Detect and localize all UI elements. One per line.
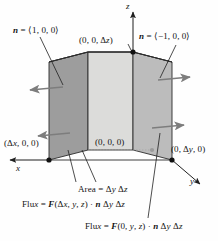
y-axis-label: y bbox=[190, 176, 194, 186]
vertex-dot-origin bbox=[150, 148, 154, 152]
y-vertex-label: (0, Δy, 0) bbox=[171, 144, 205, 154]
flux-front-label: Flux = F(Δx, y, z) · n Δy Δz bbox=[22, 199, 125, 209]
origin-label: (0, 0, 0) bbox=[95, 137, 124, 147]
box-face-right bbox=[133, 52, 172, 160]
leader-flux-front bbox=[82, 150, 96, 182]
top-vertex-label: (0, 0, Δz) bbox=[79, 35, 113, 45]
x-vertex-label: (Δx, 0, 0) bbox=[4, 138, 39, 148]
x-axis-label: x bbox=[16, 163, 20, 173]
vertex-dot-y bbox=[169, 157, 174, 162]
normal-right-label: n = ⟨−1, 0, 0⟩ bbox=[139, 31, 191, 41]
vertex-dot-x bbox=[46, 157, 51, 162]
y-axis bbox=[172, 160, 200, 184]
flux-back-label: Flux = F(0, y, z) · n Δy Δz bbox=[85, 221, 182, 231]
box-face-front bbox=[88, 52, 133, 150]
leader-area bbox=[68, 150, 76, 182]
flux-box-diagram: n = ⟨1, 0, 0⟩ n = ⟨−1, 0, 0⟩ (0, 0, Δz) … bbox=[0, 0, 218, 241]
z-axis-label: z bbox=[126, 1, 130, 11]
normal-left-label: n = ⟨1, 0, 0⟩ bbox=[13, 25, 59, 35]
area-label: Area = Δy Δz bbox=[78, 184, 128, 194]
leader-top-vertex bbox=[128, 44, 131, 50]
vertex-dot-top bbox=[130, 49, 135, 54]
